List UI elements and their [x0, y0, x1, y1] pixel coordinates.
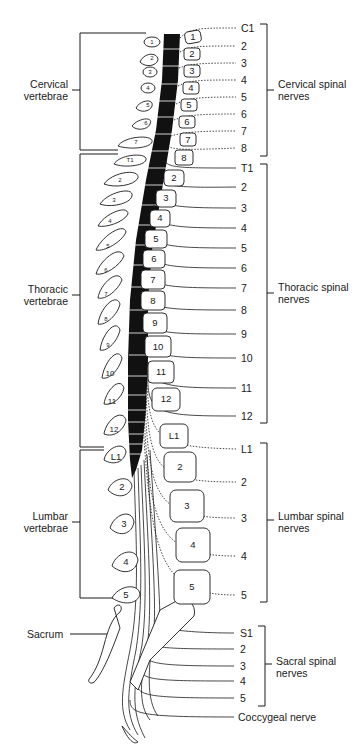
body-label-c8: 8 — [174, 152, 194, 164]
body-label-t4: 4 — [150, 212, 170, 224]
right-bracket-thoracic — [260, 164, 274, 423]
nerve-label-t11: 11 — [241, 382, 252, 394]
nerve-label-t9: 9 — [241, 328, 247, 340]
body-label-t10: 10 — [148, 341, 168, 353]
nerve-label-t1: T1 — [241, 162, 253, 174]
body-label-c5: 5 — [179, 99, 199, 111]
lumbar-vertebral-bodies — [160, 424, 210, 604]
nerve-label-l2: 2 — [241, 476, 247, 488]
nerve-label-s5: 5 — [240, 692, 246, 704]
nerve-label-t8: 8 — [241, 304, 247, 316]
process-label-t10: 10 — [100, 368, 120, 380]
label-lumbar-spinal-nerves: Lumbar spinal nerves — [278, 510, 344, 534]
process-label-t7: 7 — [100, 290, 112, 298]
nerve-label-t6: 6 — [241, 262, 247, 274]
body-label-l5: 5 — [182, 581, 202, 593]
right-bracket-lumbar — [260, 443, 274, 602]
process-label-c4: 4 — [142, 84, 154, 92]
nerve-label-c8: 8 — [241, 142, 247, 154]
process-label-c1: 1 — [146, 38, 158, 46]
right-bracket-cervical — [260, 24, 274, 156]
nerve-label-t3: 3 — [241, 202, 247, 214]
nerve-label-l3: 3 — [241, 512, 247, 524]
process-label-t4: 4 — [104, 217, 116, 225]
nerve-label-s3: 3 — [240, 660, 246, 672]
sacral-nerve-lines — [130, 628, 234, 717]
left-bracket-cervical — [72, 33, 146, 150]
process-label-t8: 8 — [100, 315, 112, 323]
body-label-t2: 2 — [164, 172, 184, 184]
body-label-t3: 3 — [156, 192, 176, 204]
nerve-label-c6: 6 — [241, 108, 247, 120]
body-label-t12: 12 — [156, 393, 176, 405]
process-label-l2: 2 — [112, 481, 132, 493]
body-label-c3: 3 — [182, 65, 202, 77]
right-bracket-sacral — [258, 626, 272, 706]
process-label-c2: 2 — [146, 54, 158, 62]
nerve-label-t5: 5 — [241, 242, 247, 254]
body-label-t6: 6 — [144, 253, 164, 265]
body-label-l2: 2 — [170, 461, 190, 473]
process-label-t9: 9 — [102, 341, 114, 349]
body-label-c2: 2 — [182, 48, 202, 60]
label-cervical-vertebrae: Cervical vertebrae — [10, 78, 68, 102]
body-label-l4: 4 — [183, 539, 203, 551]
nerve-label-s1: S1 — [240, 627, 253, 639]
nerve-label-l1: L1 — [241, 443, 253, 455]
body-label-c7: 7 — [178, 134, 198, 146]
process-label-l3: 3 — [114, 518, 134, 530]
nerve-label-l5: 5 — [241, 589, 247, 601]
nerve-label-coccygeal: Coccygeal nerve — [238, 711, 316, 723]
process-label-t6: 6 — [100, 266, 112, 274]
body-label-t11: 11 — [151, 366, 171, 378]
label-lumbar-vertebrae: Lumbar vertebrae — [10, 510, 68, 534]
nerve-label-c5: 5 — [241, 91, 247, 103]
process-label-c5: 5 — [142, 101, 154, 109]
spine-diagram — [0, 0, 364, 753]
process-label-t3: 3 — [108, 196, 120, 204]
nerve-label-t4: 4 — [241, 222, 247, 234]
nerve-label-s4: 4 — [240, 675, 246, 687]
process-label-t2: 2 — [114, 176, 126, 184]
process-label-c6: 6 — [140, 119, 152, 127]
nerve-label-t10: 10 — [241, 352, 253, 364]
nerve-label-l4: 4 — [241, 550, 247, 562]
process-label-t12: 12 — [104, 424, 124, 436]
nerve-label-c4: 4 — [241, 74, 247, 86]
label-sacral-spinal-nerves: Sacral spinal nerves — [276, 655, 336, 679]
body-label-t8: 8 — [143, 295, 163, 307]
label-sacrum: Sacrum — [27, 628, 63, 640]
nerve-label-c3: 3 — [241, 57, 247, 69]
body-label-t5: 5 — [146, 233, 166, 245]
body-label-t9: 9 — [145, 317, 165, 329]
process-label-t1: T1 — [124, 156, 136, 164]
process-label-l1: L1 — [106, 451, 126, 463]
process-label-t5: 5 — [102, 242, 114, 250]
process-label-c3: 3 — [144, 68, 156, 76]
body-label-l3: 3 — [177, 500, 197, 512]
body-label-c1: 1 — [183, 31, 203, 43]
process-label-c7: 7 — [130, 138, 142, 146]
nerve-label-t7: 7 — [241, 282, 247, 294]
process-label-l4: 4 — [116, 556, 136, 568]
process-label-l5: 5 — [116, 589, 136, 601]
left-bracket-lumbar — [72, 450, 116, 598]
process-label-t11: 11 — [102, 396, 122, 408]
nerve-label-t12: 12 — [241, 410, 253, 422]
body-label-t7: 7 — [143, 274, 163, 286]
nerve-label-t2: 2 — [241, 181, 247, 193]
body-label-c6: 6 — [177, 116, 197, 128]
nerve-label-c7: 7 — [241, 125, 247, 137]
body-label-c4: 4 — [181, 82, 201, 94]
body-label-l1: L1 — [164, 430, 184, 442]
nerve-label-c1: C1 — [241, 22, 254, 34]
label-thoracic-vertebrae: Thoracic vertebrae — [10, 283, 68, 307]
sacrum-shape — [89, 598, 195, 743]
nerve-label-c2: 2 — [241, 40, 247, 52]
label-thoracic-spinal-nerves: Thoracic spinal nerves — [278, 281, 349, 305]
label-cervical-spinal-nerves: Cervical spinal nerves — [278, 78, 346, 102]
nerve-label-s2: 2 — [240, 643, 246, 655]
